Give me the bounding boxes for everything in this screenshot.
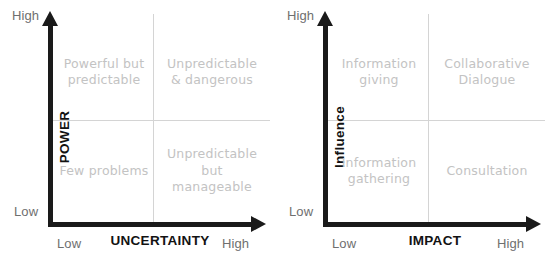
x-axis-high-label: High <box>497 236 524 251</box>
power-uncertainty-matrix: High Low Low High POWER UNCERTAINTY Powe… <box>0 0 275 270</box>
y-axis-high-label: High <box>12 8 39 23</box>
quadrant-bottom-left: Informationgathering <box>332 124 426 218</box>
x-axis-low-label: Low <box>332 236 356 251</box>
vertical-gridline <box>428 14 429 223</box>
y-axis-low-label: Low <box>14 204 38 219</box>
y-axis-arrow-icon <box>317 11 333 26</box>
y-axis-arrow-icon <box>42 11 58 26</box>
x-axis-line <box>323 222 530 227</box>
x-axis-arrow-icon <box>526 216 541 232</box>
quadrant-top-right: CollaborativeDialogue <box>431 26 543 118</box>
x-axis-title: UNCERTAINTY <box>100 233 220 248</box>
x-axis-arrow-icon <box>251 216 266 232</box>
x-axis-low-label: Low <box>57 236 81 251</box>
quadrant-top-left: Informationgiving <box>332 26 426 118</box>
y-axis-low-label: Low <box>289 204 313 219</box>
quadrant-bottom-right: Consultation <box>431 124 543 218</box>
quadrant-top-left: Powerful butpredictable <box>57 26 151 118</box>
vertical-gridline <box>153 14 154 223</box>
x-axis-line <box>48 222 255 227</box>
influence-impact-matrix: High Low Low High Influence IMPACT Infor… <box>275 0 550 270</box>
x-axis-title: IMPACT <box>375 233 495 248</box>
quadrant-bottom-left: Few problems <box>57 124 151 218</box>
quadrant-bottom-right: Unpredictablebutmanageable <box>156 124 268 218</box>
y-axis-high-label: High <box>287 8 314 23</box>
x-axis-high-label: High <box>222 236 249 251</box>
quadrant-top-right: Unpredictable& dangerous <box>156 26 268 118</box>
